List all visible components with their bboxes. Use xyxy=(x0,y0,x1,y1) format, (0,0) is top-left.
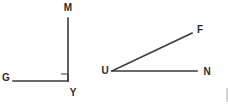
edge-artifact xyxy=(226,88,228,102)
vertex-label-f: F xyxy=(197,24,203,35)
vertex-label-g: G xyxy=(2,72,10,83)
vertex-label-n: N xyxy=(203,66,210,77)
vertex-label-u: U xyxy=(101,65,108,76)
canvas-background xyxy=(0,0,228,110)
vertex-label-y: Y xyxy=(70,87,77,98)
vertex-label-m: M xyxy=(64,2,72,13)
geometry-figure-canvas: M G Y F N U xyxy=(0,0,228,110)
